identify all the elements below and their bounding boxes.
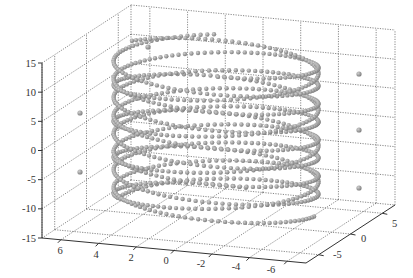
sphere-marker bbox=[256, 43, 260, 47]
sphere-marker bbox=[159, 180, 163, 184]
sphere-marker bbox=[163, 158, 167, 162]
sphere-marker bbox=[257, 185, 261, 189]
sphere-marker bbox=[169, 97, 173, 101]
sphere-marker bbox=[176, 160, 180, 164]
sphere-marker bbox=[209, 50, 213, 54]
sphere-marker bbox=[180, 70, 184, 74]
sphere-marker bbox=[356, 127, 361, 132]
sphere-marker bbox=[198, 91, 202, 95]
sphere-marker bbox=[139, 79, 143, 83]
sphere-marker bbox=[176, 53, 180, 57]
sphere-marker bbox=[164, 54, 168, 58]
sphere-marker bbox=[167, 140, 171, 144]
sphere-marker bbox=[188, 98, 192, 102]
sphere-marker bbox=[165, 180, 169, 184]
sphere-marker bbox=[275, 179, 279, 183]
sphere-marker bbox=[230, 140, 234, 144]
sphere-marker bbox=[159, 120, 163, 124]
sphere-marker bbox=[288, 89, 292, 93]
sphere-marker bbox=[146, 76, 150, 80]
sphere-marker bbox=[234, 158, 238, 162]
z-tick-labels: 15 10 5 0 -5 -10 -15 bbox=[22, 58, 36, 244]
sphere-marker bbox=[190, 134, 194, 138]
sphere-marker bbox=[271, 70, 275, 74]
sphere-marker bbox=[256, 131, 260, 135]
grid-line bbox=[131, 5, 395, 30]
sphere-marker bbox=[272, 106, 276, 110]
sphere-marker bbox=[151, 109, 155, 113]
sphere-marker bbox=[203, 128, 207, 132]
sphere-marker bbox=[157, 102, 161, 106]
sphere-marker bbox=[254, 105, 258, 109]
sphere-marker bbox=[296, 110, 300, 114]
sphere-marker bbox=[224, 134, 228, 138]
sphere-marker bbox=[238, 94, 242, 98]
sphere-marker bbox=[232, 94, 236, 98]
sphere-marker bbox=[263, 178, 267, 182]
sphere-marker bbox=[238, 86, 242, 90]
sphere-marker bbox=[295, 196, 299, 200]
sphere-marker bbox=[280, 184, 284, 188]
sphere-marker bbox=[165, 122, 169, 126]
z-tick-label: 10 bbox=[26, 87, 37, 98]
sphere-marker bbox=[262, 131, 266, 135]
sphere-marker bbox=[264, 153, 268, 157]
sphere-marker bbox=[291, 197, 295, 201]
sphere-marker bbox=[300, 109, 304, 113]
sphere-marker bbox=[177, 214, 181, 218]
z-tick-label: -10 bbox=[22, 203, 36, 214]
sphere-marker bbox=[247, 68, 251, 72]
sphere-marker bbox=[283, 108, 287, 112]
sphere-marker bbox=[153, 36, 157, 40]
sphere-marker bbox=[272, 112, 276, 116]
sphere-marker bbox=[145, 44, 150, 49]
sphere-marker bbox=[216, 50, 220, 54]
sphere-marker bbox=[297, 123, 301, 127]
sphere-marker bbox=[205, 171, 209, 175]
sphere-marker bbox=[131, 44, 135, 48]
sphere-marker bbox=[265, 202, 269, 206]
sphere-marker bbox=[144, 171, 148, 175]
sphere-marker bbox=[141, 202, 145, 206]
sphere-marker bbox=[169, 104, 173, 108]
sphere-marker bbox=[140, 146, 144, 150]
z-tick-label: -5 bbox=[27, 174, 36, 185]
sphere-marker bbox=[223, 140, 227, 144]
sphere-marker bbox=[207, 200, 211, 204]
sphere-marker bbox=[230, 50, 234, 54]
x-tick-label: 2 bbox=[128, 252, 133, 263]
sphere-marker bbox=[180, 142, 184, 146]
sphere-marker bbox=[202, 105, 206, 109]
sphere-marker bbox=[182, 98, 186, 102]
sphere-marker bbox=[287, 111, 291, 115]
sphere-marker bbox=[247, 159, 251, 163]
sphere-marker bbox=[270, 148, 274, 152]
sphere-marker bbox=[193, 207, 197, 211]
sphere-marker bbox=[189, 51, 193, 55]
sphere-marker bbox=[286, 147, 290, 151]
sphere-marker bbox=[194, 109, 198, 113]
sphere-marker bbox=[158, 156, 162, 160]
sphere-marker bbox=[235, 104, 239, 108]
sphere-marker bbox=[284, 50, 288, 54]
sphere-marker bbox=[225, 93, 229, 97]
sphere-marker bbox=[274, 47, 278, 51]
sphere-marker bbox=[159, 145, 163, 149]
sphere-marker bbox=[243, 133, 247, 137]
sphere-marker bbox=[219, 122, 223, 126]
sphere-marker bbox=[295, 200, 299, 204]
sphere-marker bbox=[152, 155, 156, 159]
sphere-marker bbox=[223, 75, 227, 79]
sphere-marker bbox=[225, 170, 229, 174]
sphere-marker bbox=[205, 177, 209, 181]
sphere-marker bbox=[243, 76, 247, 80]
sphere-marker bbox=[143, 181, 147, 185]
sphere-marker bbox=[300, 164, 304, 168]
sphere-marker bbox=[252, 123, 256, 127]
sphere-marker bbox=[237, 140, 241, 144]
sphere-marker bbox=[271, 201, 275, 205]
sphere-marker bbox=[156, 138, 160, 142]
sphere-marker bbox=[128, 183, 132, 187]
sphere-marker bbox=[265, 70, 269, 74]
sphere-marker bbox=[187, 198, 191, 202]
